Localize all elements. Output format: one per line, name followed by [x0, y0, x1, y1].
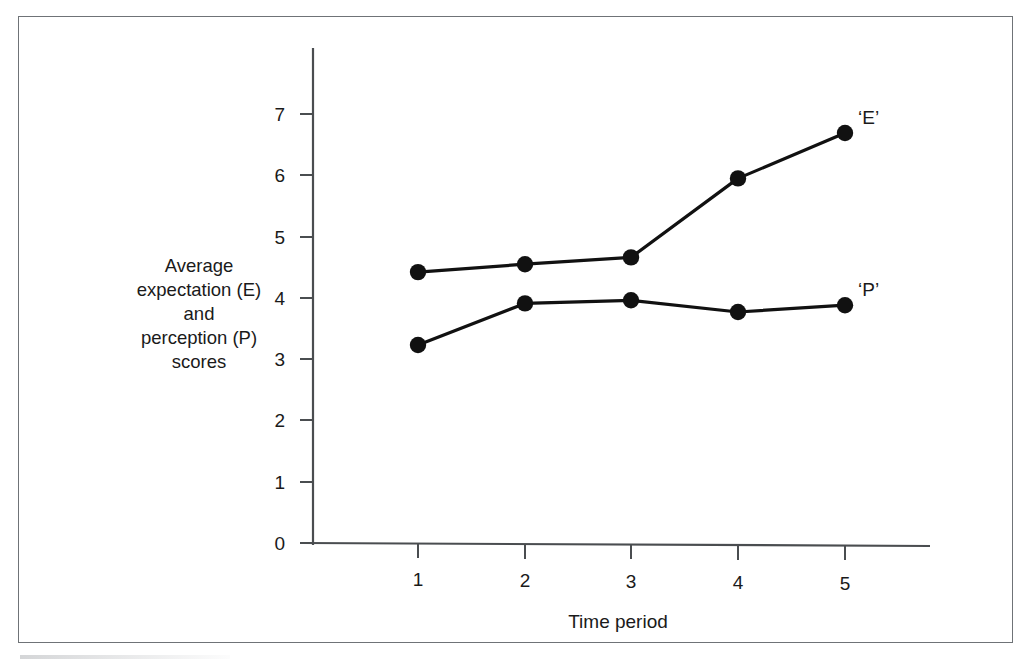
- x-tick-label-4: 4: [733, 572, 744, 593]
- y-tick-label-4: 4: [274, 288, 285, 309]
- y-tick-label-7: 7: [274, 104, 285, 125]
- series-label-p: ‘P’: [858, 279, 879, 300]
- y-axis-title-line-4: perception (P): [141, 327, 257, 348]
- line-chart: 0 1 2 3 4 5 6 7 1 2 3 4 5 Time period Av…: [0, 0, 1031, 665]
- y-axis-title-line-1: Average: [165, 255, 234, 276]
- data-point-marker: [517, 256, 533, 272]
- data-point-marker: [517, 295, 533, 311]
- figure-root: 0 1 2 3 4 5 6 7 1 2 3 4 5 Time period Av…: [0, 0, 1031, 665]
- x-tick-label-5: 5: [840, 573, 851, 594]
- x-tick-label-2: 2: [520, 570, 531, 591]
- series-e-markers: [410, 125, 853, 280]
- y-tick-label-1: 1: [274, 472, 285, 493]
- data-point-marker: [730, 304, 746, 320]
- data-point-marker: [837, 125, 853, 141]
- series-label-e: ‘E’: [858, 107, 879, 128]
- x-axis-line: [303, 543, 930, 546]
- y-axis-title-line-3: and: [184, 303, 215, 324]
- y-tick-label-6: 6: [274, 165, 285, 186]
- data-point-marker: [410, 337, 426, 353]
- data-point-marker: [730, 170, 746, 186]
- y-tick-label-0: 0: [274, 533, 285, 554]
- y-tick-label-5: 5: [274, 227, 285, 248]
- data-point-marker: [410, 264, 426, 280]
- y-axis-title: Average expectation (E) and perception (…: [137, 255, 261, 372]
- x-tick-label-1: 1: [413, 569, 424, 590]
- x-axis-ticks: [418, 544, 845, 560]
- y-tick-label-2: 2: [274, 410, 285, 431]
- y-axis-ticks: [300, 114, 313, 543]
- x-axis-title: Time period: [568, 611, 668, 632]
- y-axis-title-line-5: scores: [172, 351, 227, 372]
- data-point-marker: [837, 297, 853, 313]
- x-tick-label-3: 3: [626, 571, 637, 592]
- series-line-p: [410, 292, 853, 353]
- data-point-marker: [623, 292, 639, 308]
- series-line-e: [410, 125, 853, 280]
- data-point-marker: [623, 249, 639, 265]
- y-axis-title-line-2: expectation (E): [137, 279, 261, 300]
- y-tick-label-3: 3: [274, 349, 285, 370]
